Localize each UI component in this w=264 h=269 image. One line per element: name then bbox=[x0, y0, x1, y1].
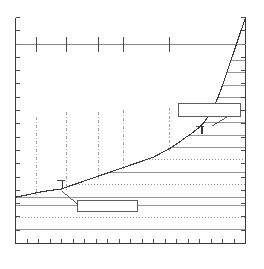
callout-lower-box bbox=[78, 201, 138, 212]
callout-upper-box bbox=[179, 103, 241, 117]
figure-background bbox=[0, 0, 264, 269]
chart-plot-area bbox=[0, 0, 264, 269]
chart-figure bbox=[0, 0, 264, 269]
